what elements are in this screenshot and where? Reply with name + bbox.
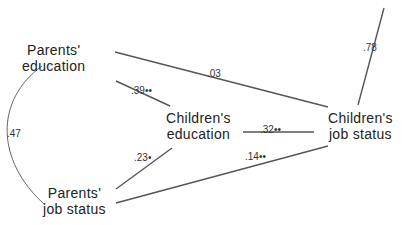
coef-pe-pj-correlation: .47: [7, 128, 21, 139]
node-parents-education: Parents' education: [22, 42, 85, 74]
node-childrens-job-status: Children's job status: [328, 110, 393, 142]
path-residual-cj: [358, 8, 384, 105]
node-childrens-education: Children's education: [166, 110, 231, 142]
path-pe-to-cj: [115, 52, 328, 107]
coef-residual-cj: .78: [363, 42, 377, 53]
coef-pj-to-cj: .14••: [245, 151, 266, 162]
node-parents-job-status: Parents' job status: [43, 185, 106, 217]
coef-ce-to-cj: .32••: [260, 124, 281, 135]
coef-pe-to-cj: .03: [207, 68, 221, 79]
coef-pj-to-ce: .23•: [134, 152, 151, 163]
coef-pe-to-ce: .39••: [131, 85, 152, 96]
